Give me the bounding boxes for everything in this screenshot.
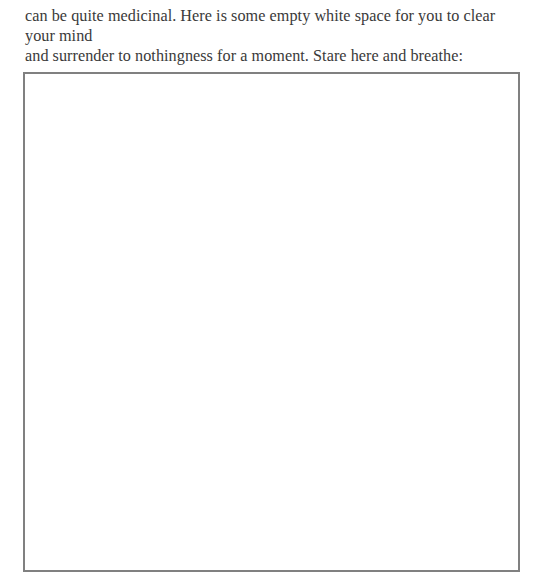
paragraph-line-1: can be quite medicinal. Here is some emp… — [25, 7, 495, 45]
empty-white-space-box — [23, 72, 520, 572]
paragraph-line-2: and surrender to nothingness for a momen… — [25, 47, 463, 65]
body-paragraph: can be quite medicinal. Here is some emp… — [25, 6, 525, 66]
